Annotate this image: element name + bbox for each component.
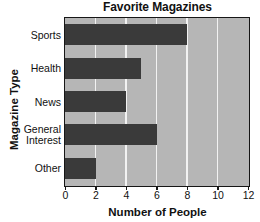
x-axis-tick-label: 4 xyxy=(115,189,139,201)
plot-area xyxy=(64,17,250,187)
y-axis-tick-label: Health xyxy=(0,63,61,74)
y-axis-title: Magazine Type xyxy=(7,35,22,185)
y-axis-tick-label: Sports xyxy=(0,30,61,41)
chart-title: Favorite Magazines xyxy=(64,0,251,15)
bar xyxy=(65,124,157,145)
y-axis-tick-label: News xyxy=(0,97,61,108)
x-axis-tick-label: 6 xyxy=(145,189,169,201)
x-axis-title: Number of People xyxy=(64,205,251,220)
y-axis-tick-label-line: Health xyxy=(0,63,61,74)
y-axis-tick-label: GeneralInterest xyxy=(0,124,61,146)
x-axis-tick-label: 0 xyxy=(54,189,78,201)
x-axis-tick-label: 8 xyxy=(176,189,200,201)
y-axis-tick-label: Other xyxy=(0,163,61,174)
y-axis-tick-label-line: Sports xyxy=(0,30,61,41)
y-axis-tick-label-line: Interest xyxy=(0,135,61,146)
x-axis-tick-label: 2 xyxy=(84,189,108,201)
bar xyxy=(65,91,126,112)
chart-container: Favorite Magazines Magazine Type Number … xyxy=(0,0,259,222)
bar xyxy=(65,58,141,79)
bar xyxy=(65,24,187,45)
y-axis-tick-label-line: News xyxy=(0,97,61,108)
x-axis-tick-label: 12 xyxy=(237,189,260,201)
x-axis-tick-label: 10 xyxy=(206,189,230,201)
bars-layer xyxy=(65,18,249,186)
y-axis-tick-label-line: Other xyxy=(0,163,61,174)
bar xyxy=(65,158,96,179)
